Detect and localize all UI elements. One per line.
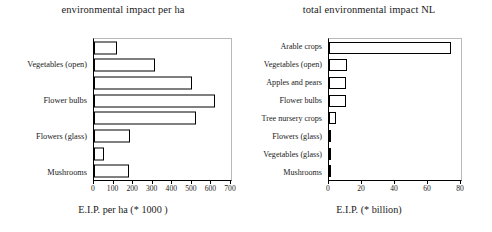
bar-row (329, 145, 461, 163)
x-axis-tick-label: 300 (146, 184, 157, 193)
bar (329, 130, 331, 142)
bar-row (329, 162, 461, 180)
figure-two-bar-charts: environmental impact per ha Vegetables (… (0, 0, 492, 232)
x-axis-title-left: E.I.P. per ha (* 1000 ) (0, 204, 246, 215)
x-axis-tick-label: 0 (326, 184, 330, 193)
category-label: Vegetables (open) (0, 56, 90, 74)
bar (329, 165, 331, 177)
bar-series-left (94, 39, 231, 180)
category-label: Flower bulbs (0, 92, 90, 110)
category-label: Apples and pears (247, 74, 325, 92)
bar-row (94, 162, 231, 180)
x-axis-tick-label: 700 (224, 184, 235, 193)
bar (329, 95, 346, 107)
bar-row (329, 57, 461, 75)
x-axis-tick-label: 0 (91, 184, 95, 193)
x-axis-tick-label: 500 (185, 184, 196, 193)
category-label: Flower bulbs (247, 92, 325, 110)
bar-row (94, 74, 231, 92)
category-label: Mushrooms (247, 163, 325, 181)
bar-row (329, 39, 461, 57)
bar (94, 112, 196, 125)
bar-row (94, 92, 231, 110)
bar (329, 42, 451, 54)
bar (94, 94, 215, 107)
chart-panel-environmental-impact-per-ha: environmental impact per ha Vegetables (… (0, 0, 246, 232)
bar (94, 41, 117, 54)
x-axis-tick-label: 60 (423, 184, 431, 193)
bar-row (94, 145, 231, 163)
category-label: Mushrooms (0, 163, 90, 181)
bar-row (94, 127, 231, 145)
x-axis-title-right: E.I.P. (* billion) (246, 204, 492, 215)
x-axis-tick-label: 20 (357, 184, 365, 193)
bar (329, 59, 347, 71)
bar (94, 59, 155, 72)
bar (329, 77, 346, 89)
chart-title-left: environmental impact per ha (0, 4, 246, 15)
bar (329, 148, 331, 160)
category-axis-labels-left: Vegetables (open) Flower bulbs Flowers (… (0, 38, 90, 181)
x-axis-right: 020406080 (328, 181, 462, 193)
x-axis-tick-label: 600 (205, 184, 216, 193)
category-label: Tree nursery crops (247, 110, 325, 128)
bar (94, 77, 192, 90)
bar (94, 147, 104, 160)
x-axis-tick-label: 200 (126, 184, 137, 193)
bar-row (329, 74, 461, 92)
bar-row (94, 110, 231, 128)
bar-row (94, 57, 231, 75)
x-axis-tick-label: 40 (390, 184, 398, 193)
bar (329, 112, 336, 124)
bar-row (329, 127, 461, 145)
category-label: Vegetables (glass) (247, 145, 325, 163)
bar-series-right (329, 39, 461, 180)
category-axis-labels-right: Arable crops Vegetables (open) Apples an… (247, 38, 325, 181)
x-axis-tick-label: 100 (107, 184, 118, 193)
bar (94, 129, 130, 142)
bar-row (329, 110, 461, 128)
chart-title-right: total environmental impact NL (246, 4, 492, 15)
x-axis-left: 0100200300400500600700 (93, 181, 232, 193)
category-label: Arable crops (247, 38, 325, 56)
bar-row (94, 39, 231, 57)
bar (94, 165, 129, 178)
plot-area-right (328, 38, 462, 181)
category-label: Vegetables (open) (247, 56, 325, 74)
x-axis-tick-label: 400 (166, 184, 177, 193)
x-axis-tick-label: 80 (456, 184, 464, 193)
plot-area-left (93, 38, 232, 181)
bar-row (329, 92, 461, 110)
category-label: Flowers (glass) (0, 127, 90, 145)
category-label: Flowers (glass) (247, 127, 325, 145)
